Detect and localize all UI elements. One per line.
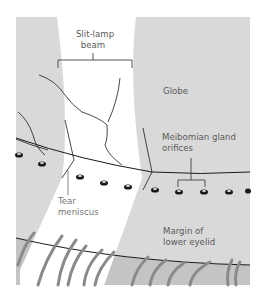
label-tear: Tear — [57, 196, 76, 206]
orifice — [245, 188, 251, 193]
label-orifices: orifices — [162, 143, 194, 153]
label-globe: Globe — [163, 86, 188, 96]
label-beam: beam — [81, 40, 105, 50]
label-meniscus: meniscus — [58, 207, 99, 217]
label-slit-lamp: Slit-lamp — [76, 29, 114, 39]
label-meibomian: Meibomian gland — [162, 132, 236, 142]
label-lower-eyelid: lower eyelid — [163, 237, 215, 247]
slit-lamp-diagram: Slit-lamp beam Globe Meibomian gland ori… — [0, 0, 266, 298]
label-margin-of: Margin of — [163, 226, 204, 236]
